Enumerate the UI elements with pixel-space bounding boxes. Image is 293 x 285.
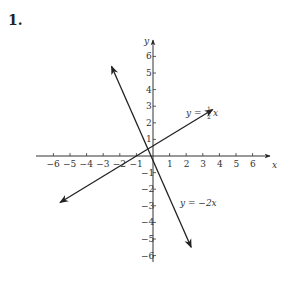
x-tick-label: 2 xyxy=(184,159,190,169)
coordinate-plane: xy −6−5−4−3−2−1123456−6−5−4−3−2−1123456 … xyxy=(0,0,293,285)
x-tick-label: 5 xyxy=(234,159,240,169)
svg-text:2: 2 xyxy=(207,113,211,120)
y-tick-label: −3 xyxy=(141,201,155,211)
y-tick-label: 5 xyxy=(146,68,152,78)
svg-text:x: x xyxy=(213,108,218,118)
x-tick-label: 1 xyxy=(167,159,173,169)
y-tick-label: −5 xyxy=(141,234,155,244)
y-tick-label: −1 xyxy=(141,168,154,178)
x-axis-label: x xyxy=(272,160,277,170)
y-axis-label: y xyxy=(143,36,150,46)
svg-text:y =: y = xyxy=(185,108,202,118)
y-tick-label: −2 xyxy=(141,184,154,194)
x-tick-label: 3 xyxy=(200,159,206,169)
equation-label-neg-2x: y = −2x xyxy=(179,198,217,208)
y-tick-label: 4 xyxy=(146,85,152,95)
plotted-lines xyxy=(60,66,213,247)
y-tick-label: 2 xyxy=(146,118,152,128)
y-tick-label: 3 xyxy=(146,101,152,111)
x-tick-label: −4 xyxy=(80,159,94,169)
y-tick-label: −4 xyxy=(141,217,155,227)
axes: xy xyxy=(36,36,277,262)
y-tick-label: 6 xyxy=(146,51,152,61)
x-tick-label: −3 xyxy=(96,159,110,169)
x-tick-label: 4 xyxy=(217,159,223,169)
y-tick-label: −6 xyxy=(141,251,155,261)
x-tick-label: 6 xyxy=(250,159,256,169)
x-tick-label: −5 xyxy=(63,159,77,169)
y-tick-label: 1 xyxy=(146,134,152,144)
svg-text:1: 1 xyxy=(207,105,211,112)
equation-label-half-x: y = 12x xyxy=(185,105,218,120)
x-tick-label: −6 xyxy=(46,159,60,169)
